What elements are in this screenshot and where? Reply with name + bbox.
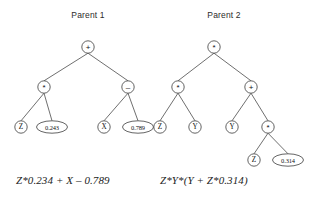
equation-parent-2: Z*Y*(Y + Z*0.314): [160, 174, 248, 186]
tree-node-variable: X: [98, 121, 110, 133]
node-label: –: [126, 83, 131, 92]
node-label: *: [212, 43, 215, 52]
tree-node-operator: *: [208, 41, 220, 53]
node-label: *: [42, 83, 45, 92]
tree-node-operator: *: [262, 121, 274, 133]
tree-edge: [88, 53, 128, 81]
tree-node-variable: Z: [154, 121, 166, 133]
tree-node-operator: +: [245, 81, 257, 93]
tree-diagram-canvas: +*–Z0.243X0.789**+ZYY*Z0.314: [0, 0, 313, 202]
tree-node-operator: *: [172, 81, 184, 93]
node-label: *: [266, 123, 269, 132]
node-label: 0.314: [281, 157, 296, 164]
node-label: Y: [192, 123, 198, 131]
node-label: +: [249, 83, 254, 92]
tree-edge: [44, 93, 52, 121]
tree-edge: [178, 53, 214, 81]
tree-node-constant: 0.314: [273, 154, 304, 166]
tree-edge: [214, 53, 251, 81]
expression-tree-figure: Parent 1 Parent 2 +*–Z0.243X0.789**+ZYY*…: [0, 0, 313, 202]
tree-node-variable: Z: [15, 121, 27, 133]
node-label: X: [101, 123, 107, 131]
tree-node-constant: 0.243: [37, 121, 68, 133]
node-label: Z: [158, 123, 162, 131]
tree-node-operator: *: [38, 81, 50, 93]
tree-edge: [21, 93, 44, 121]
tree-edge: [104, 93, 128, 121]
tree-nodes-parent-2: **+ZYY*Z0.314: [154, 41, 304, 166]
tree-edge: [128, 93, 138, 121]
tree-node-operator: +: [82, 41, 94, 53]
tree-node-variable: Z: [248, 154, 260, 166]
node-label: 0.789: [131, 124, 145, 131]
tree-nodes-parent-1: +*–Z0.243X0.789: [15, 41, 154, 133]
node-label: +: [86, 43, 91, 52]
tree-edge: [254, 133, 268, 154]
node-label: Z: [19, 123, 23, 131]
tree-edge: [268, 133, 288, 154]
tree-node-variable: Y: [189, 121, 201, 133]
tree-edge: [160, 93, 178, 121]
tree-node-variable: Y: [226, 121, 238, 133]
tree-edge: [251, 93, 268, 121]
node-label: Y: [229, 123, 235, 131]
equation-parent-1: Z*0.234 + X – 0.789: [16, 174, 110, 186]
tree-edge: [232, 93, 251, 121]
tree-edges-parent-2: [160, 53, 288, 154]
tree-node-operator: –: [122, 81, 134, 93]
node-label: Z: [252, 156, 256, 164]
node-label: *: [176, 83, 179, 92]
tree-node-constant: 0.789: [123, 121, 154, 133]
tree-edge: [178, 93, 195, 121]
tree-edge: [44, 53, 88, 81]
node-label: 0.243: [45, 124, 59, 131]
